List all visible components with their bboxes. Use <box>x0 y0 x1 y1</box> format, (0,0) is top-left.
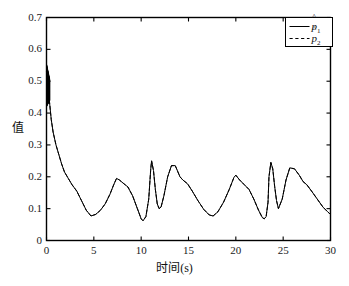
legend-box <box>286 18 333 47</box>
y-tick-label: 0.6 <box>6 42 42 54</box>
x-tick-label: 20 <box>221 244 251 256</box>
y-tick-label: 0.3 <box>6 138 42 150</box>
data-series-layer <box>47 64 331 221</box>
x-tick-label: 30 <box>316 244 346 256</box>
y-tick-label: 0.7 <box>6 11 42 23</box>
x-axis-label: 时间(s) <box>0 258 349 276</box>
chart-figure: 值 时间(s) 00.10.20.30.40.50.60.7 051015202… <box>0 0 349 286</box>
y-tick-label: 0.2 <box>6 170 42 182</box>
y-axis-label: 值 <box>7 118 29 136</box>
legend-border <box>286 18 333 47</box>
x-tick-label: 5 <box>79 244 109 256</box>
plot-border <box>47 18 331 241</box>
legend-label-p2: p2 <box>312 32 321 47</box>
axis-ticks <box>47 18 331 241</box>
y-tick-label: 0.5 <box>6 74 42 86</box>
axes-frame <box>47 18 331 241</box>
series-line-2 <box>47 72 331 221</box>
startup-transient-chatter <box>47 64 50 107</box>
x-tick-label: 25 <box>268 244 298 256</box>
x-tick-label: 0 <box>32 244 62 256</box>
x-tick-label: 10 <box>126 244 156 256</box>
x-tick-label: 15 <box>174 244 204 256</box>
y-tick-label: 0.4 <box>6 106 42 118</box>
y-tick-label: 0.1 <box>6 202 42 214</box>
series-line-1 <box>47 72 331 221</box>
